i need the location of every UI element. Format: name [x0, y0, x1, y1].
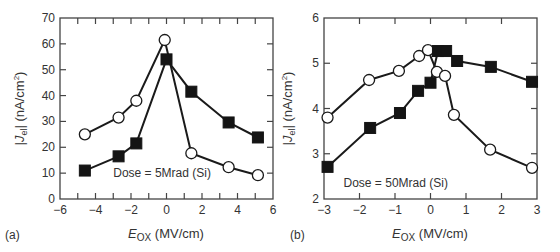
data-point-circle [440, 70, 451, 81]
x-tick-label: −6 [53, 203, 67, 217]
x-tick-label: 1 [463, 203, 470, 217]
x-axis-title: EOX (MV/cm) [392, 226, 468, 243]
data-point-square [131, 138, 142, 149]
data-point-circle [423, 45, 434, 56]
y-tick-label: 4 [312, 102, 319, 116]
chart-panel-b: −3−2−1012323456Dose = 50Mrad (Si)EOX (MV… [280, 11, 541, 243]
panel-label-a: (a) [5, 228, 20, 242]
data-point-circle [223, 162, 234, 173]
data-point-square [413, 85, 424, 96]
data-point-square [485, 61, 496, 72]
chart-panel-a: −6−4−20246010203040506070Dose = 5Mrad (S… [12, 11, 277, 243]
data-point-square [223, 117, 234, 128]
dose-annotation: Dose = 5Mrad (Si) [113, 166, 211, 180]
x-tick-label: −4 [89, 203, 103, 217]
x-tick-label: 2 [498, 203, 505, 217]
data-point-circle [485, 144, 496, 155]
y-tick-label: 60 [42, 37, 56, 51]
data-point-circle [131, 95, 142, 106]
data-point-square [394, 108, 405, 119]
y-tick-label: 5 [312, 56, 319, 70]
x-tick-label: −2 [124, 203, 138, 217]
x-tick-label: 2 [199, 203, 206, 217]
y-tick-label: 40 [42, 89, 56, 103]
data-point-square [322, 161, 333, 172]
x-tick-label: 4 [234, 203, 241, 217]
x-tick-label: 0 [427, 203, 434, 217]
data-point-square [452, 55, 463, 66]
y-tick-label: 50 [42, 63, 56, 77]
y-tick-label: 10 [42, 166, 56, 180]
data-point-square [252, 132, 263, 143]
series-line-circle [328, 50, 532, 168]
data-point-circle [252, 170, 263, 181]
y-axis-title: |Jel| (nA/cm2) [12, 72, 29, 146]
x-tick-label: −1 [388, 203, 402, 217]
x-tick-label: 6 [270, 203, 277, 217]
data-point-circle [527, 162, 538, 173]
data-point-square [113, 151, 124, 162]
panel-label-b: (b) [290, 228, 305, 242]
data-point-square [527, 76, 538, 87]
y-tick-label: 3 [312, 147, 319, 161]
y-tick-label: 0 [48, 192, 55, 206]
data-point-circle [448, 109, 459, 120]
data-point-square [161, 54, 172, 65]
data-point-square [186, 86, 197, 97]
y-tick-label: 2 [312, 192, 319, 206]
y-tick-label: 6 [312, 11, 319, 25]
data-point-circle [186, 148, 197, 159]
dose-annotation: Dose = 50Mrad (Si) [344, 176, 448, 190]
y-axis-title: |Jel| (nA/cm2) [280, 72, 297, 146]
x-tick-label: 0 [163, 203, 170, 217]
data-point-circle [79, 129, 90, 140]
x-axis-title: EOX (MV/cm) [128, 226, 204, 243]
data-point-square [365, 122, 376, 133]
figure: −6−4−20246010203040506070Dose = 5Mrad (S… [0, 0, 560, 252]
data-point-square [425, 77, 436, 88]
x-tick-label: −3 [317, 203, 331, 217]
series-line-square [328, 51, 532, 167]
x-tick-label: −2 [353, 203, 367, 217]
data-point-circle [364, 74, 375, 85]
y-tick-label: 70 [42, 11, 56, 25]
data-point-square [441, 46, 452, 57]
data-point-circle [159, 34, 170, 45]
y-tick-label: 30 [42, 114, 56, 128]
data-point-circle [113, 112, 124, 123]
data-point-circle [322, 112, 333, 123]
series-line-square [85, 59, 258, 170]
x-tick-label: 3 [534, 203, 541, 217]
data-point-circle [393, 65, 404, 76]
data-point-square [79, 165, 90, 176]
y-tick-label: 20 [42, 140, 56, 154]
